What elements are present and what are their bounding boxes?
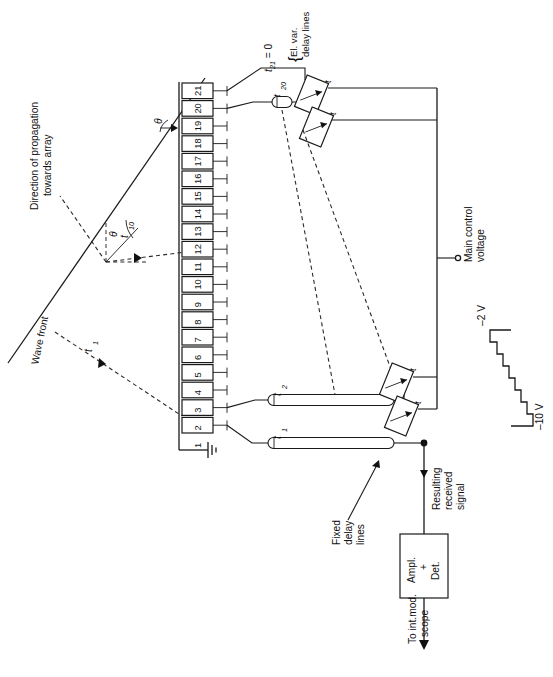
variable-delay-t-label: t [322, 80, 333, 83]
fixed-delay-line-t1 [268, 438, 394, 449]
array-element-label: 20 [192, 103, 203, 113]
array-element[interactable] [182, 382, 227, 398]
t10-wave-label: t 10 [119, 222, 136, 238]
wavefront-group: Direction of propagation towards array W… [8, 78, 205, 416]
array-element-label: 7 [192, 337, 203, 342]
scope-label-2: scope [419, 609, 430, 637]
array-element[interactable] [182, 83, 227, 99]
ellipsis-line-1 [303, 130, 392, 372]
t1-wave-label: t 1 [83, 341, 100, 352]
ray-t10 [106, 252, 186, 262]
array-element-label: 12 [192, 244, 203, 254]
staircase-trace [490, 330, 533, 426]
array-element[interactable] [182, 153, 227, 169]
ray-t1-arrow [98, 358, 106, 368]
array-element-label: 15 [192, 191, 203, 201]
array-element-label: 14 [192, 209, 203, 219]
theta-label-2: θ [153, 118, 164, 124]
fixed-delay-t20 [272, 97, 292, 108]
amplifier-label-2: + [418, 564, 429, 570]
resulting-received-signal-label-2: received [443, 471, 454, 510]
array-element[interactable] [182, 259, 227, 275]
array-element-label: 11 [192, 262, 203, 272]
ellipsis-line-2 [282, 110, 336, 400]
theta-label-1: θ [108, 231, 119, 237]
fixed-delay-line-t2 [268, 395, 394, 406]
fixed-delay-callout-line [348, 463, 378, 520]
array-element-label: 5 [192, 372, 203, 377]
output-chain: Resulting received signal Ampl. + Det. T… [400, 440, 466, 650]
variable-delay-label-1: El. var. [288, 28, 299, 57]
main-control-voltage-label-2: voltage [475, 229, 486, 262]
array-element-label: 21 [192, 86, 203, 96]
svg-text:1: 1 [91, 341, 100, 345]
array-element[interactable] [182, 224, 227, 240]
resulting-signal-arrow [420, 470, 428, 478]
feed-line-20 [227, 102, 272, 108]
scope-label-1: To int.mod. [407, 594, 418, 644]
antenna-element-array: 21 20 19 18 17 16 15 14 13 12 11 10 9 8 … [179, 82, 227, 458]
main-control-bus: Main control voltage [437, 88, 486, 409]
fixed-delay-callout-arrow [372, 460, 380, 468]
feed-line-2 [227, 400, 268, 408]
array-element-label: 16 [192, 174, 203, 184]
array-element[interactable] [182, 118, 227, 134]
svg-text:t: t [119, 234, 130, 238]
array-element-label: 18 [192, 138, 203, 148]
t20-label: t 20 [271, 82, 288, 97]
svg-text:2: 2 [280, 385, 289, 390]
control-terminal-dot[interactable] [455, 255, 460, 260]
array-element[interactable] [182, 206, 227, 222]
theta-arrow-head [171, 124, 178, 132]
feed-line-1 [227, 425, 268, 443]
staircase-bottom-voltage: –10 V [534, 403, 545, 430]
resulting-received-signal-label-1: Resulting [431, 467, 442, 510]
array-element-label: 1 [192, 443, 203, 448]
svg-text:20: 20 [279, 82, 288, 91]
direction-of-propagation-label-2: towards array [42, 133, 53, 196]
array-element[interactable] [182, 101, 227, 117]
array-element[interactable] [182, 277, 227, 293]
ray-t1 [55, 332, 182, 416]
fixed-delay-lines-label-1: Fixed [331, 520, 342, 545]
array-element[interactable] [182, 312, 227, 328]
array-element-label: 19 [192, 121, 203, 131]
array-element-label: 3 [192, 408, 203, 413]
main-control-voltage-label-1: Main control [463, 207, 474, 263]
array-element[interactable] [182, 329, 227, 345]
array-element-label: 9 [192, 302, 203, 307]
svg-text:t: t [83, 348, 94, 352]
resulting-received-signal-label-3: signal [455, 483, 466, 510]
array-element[interactable] [182, 241, 227, 257]
scope-output-arrow [419, 640, 429, 650]
array-element[interactable] [182, 136, 227, 152]
array-element-label: 10 [192, 279, 203, 289]
svg-text:t: t [271, 94, 282, 97]
array-element[interactable] [182, 294, 227, 310]
svg-text:10: 10 [127, 222, 136, 230]
fixed-delay-lines-callout: Fixed delay lines [331, 460, 380, 545]
array-element[interactable] [182, 400, 227, 416]
variable-delay-label-2: delay lines [300, 11, 311, 57]
array-element[interactable] [182, 417, 227, 433]
array-element[interactable] [182, 347, 227, 363]
array-element-label: 6 [192, 355, 203, 360]
fixed-delay-lines-label-2: delay [343, 520, 354, 545]
array-element-label: 4 [192, 390, 203, 395]
variable-delay-t-label: t [327, 112, 338, 115]
array-element-label: 13 [192, 226, 203, 236]
array-element[interactable] [182, 189, 227, 205]
svg-text:1: 1 [280, 428, 289, 432]
ray-t10-b [60, 196, 106, 262]
wave-front-label: Wave front [29, 315, 50, 365]
svg-text:t: t [272, 435, 283, 439]
array-element[interactable] [182, 171, 227, 187]
array-element[interactable] [182, 365, 227, 381]
array-element-label: 8 [192, 320, 203, 325]
direction-of-propagation-label: Direction of propagation [29, 102, 40, 210]
staircase-top-voltage: –2 V [476, 305, 487, 326]
amplifier-label-3: Det. [430, 561, 441, 580]
staircase-waveform: –2 V –10 V [476, 305, 545, 430]
svg-text:t: t [272, 392, 283, 396]
array-element-label: 17 [192, 156, 203, 166]
